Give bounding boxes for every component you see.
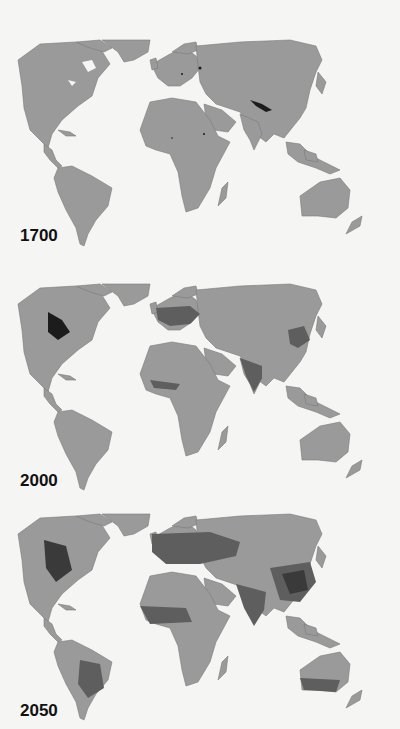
world-map-1700 bbox=[0, 38, 400, 248]
year-label-2000: 2000 bbox=[20, 471, 58, 491]
map-panel-2050 bbox=[0, 512, 400, 727]
map-panel-2000 bbox=[0, 282, 400, 492]
year-label-1700: 1700 bbox=[20, 226, 58, 246]
world-map-2050 bbox=[0, 512, 400, 727]
map-panel-1700 bbox=[0, 38, 400, 248]
world-map-2000 bbox=[0, 282, 400, 492]
year-label-2050: 2050 bbox=[20, 701, 58, 721]
